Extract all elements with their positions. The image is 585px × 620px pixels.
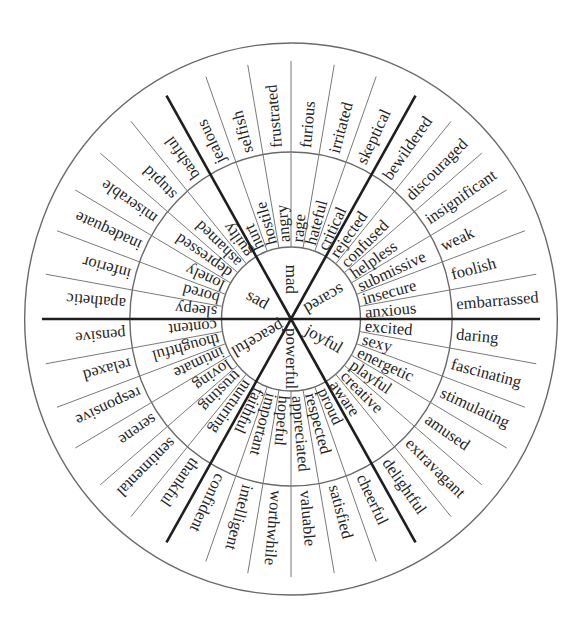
outer-word-bashful: bashful bbox=[160, 133, 204, 184]
core-label-scared: scared bbox=[300, 280, 348, 318]
outer-word-worthwhile: worthwhile bbox=[261, 490, 286, 567]
outer-word-cheerful: cheerful bbox=[353, 471, 393, 528]
core-label-mad: mad bbox=[282, 265, 301, 295]
core-label-sad: sad bbox=[243, 285, 273, 313]
outer-word-furious: furious bbox=[296, 100, 319, 148]
outer-word-apathetic: apathetic bbox=[66, 289, 127, 313]
outer-word-valuable: valuable bbox=[296, 490, 320, 547]
outer-word-satisfied: satisfied bbox=[325, 483, 358, 542]
outer-word-inferior: inferior bbox=[80, 252, 133, 283]
outer-word-pensive: pensive bbox=[75, 325, 127, 348]
outer-ring-words: embarrassedfoolishweakinsignificantdisco… bbox=[66, 83, 541, 566]
outer-word-relaxed: relaxed bbox=[81, 354, 134, 385]
outer-word-selfish: selfish bbox=[228, 108, 258, 155]
outer-word-intelligent: intelligent bbox=[221, 483, 257, 553]
outer-word-stupid: stupid bbox=[138, 162, 180, 204]
outer-word-frustrated: frustrated bbox=[261, 83, 286, 148]
core-emotion-labels: scaredmadsadpeacefulpowerfuljoyful bbox=[228, 265, 348, 390]
outer-word-foolish: foolish bbox=[449, 253, 499, 283]
outer-word-embarrassed: embarrassed bbox=[456, 287, 541, 313]
core-label-powerful: powerful bbox=[282, 328, 301, 390]
outer-word-serene: serene bbox=[115, 410, 160, 450]
outer-word-irritated: irritated bbox=[325, 99, 357, 155]
feeling-wheel: anxiousinsecuresubmissivehelplessconfuse… bbox=[0, 0, 585, 620]
outer-word-jealous: jealous bbox=[192, 117, 229, 168]
outer-word-daring: daring bbox=[456, 325, 500, 348]
core-label-peaceful: peaceful bbox=[228, 316, 288, 361]
